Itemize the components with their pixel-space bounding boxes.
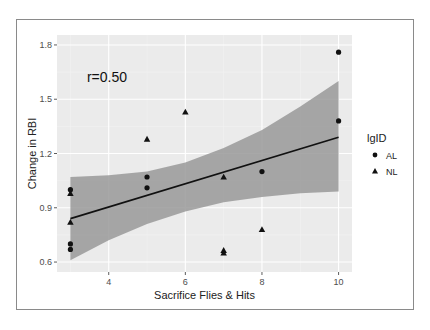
data-point-al [336,50,341,55]
legend: lgID ALNL [367,132,398,177]
y-tick-label: 1.8 [39,40,52,50]
y-tick-label: 1.2 [39,149,52,159]
x-axis: 46810 [106,272,343,287]
y-tick-label: 0.9 [39,203,52,213]
data-point-al [144,174,149,179]
legend-title: lgID [367,132,387,144]
data-point-al [144,185,149,190]
data-point-al [259,169,264,174]
x-tick-label: 8 [259,277,264,287]
data-point-al [68,247,73,252]
data-point-al [336,118,341,123]
x-axis-title: Sacrifice Flies & Hits [154,289,255,301]
legend-label-al: AL [386,151,397,161]
legend-label-nl: NL [386,167,398,177]
y-axis: 0.60.91.21.51.8 [39,40,57,267]
x-tick-label: 10 [334,277,344,287]
legend-key-nl [372,168,378,173]
legend-key-al [373,153,378,158]
y-tick-label: 0.6 [39,257,52,267]
x-tick-label: 4 [106,277,111,287]
legend-items: ALNL [372,151,398,177]
y-tick-label: 1.5 [39,94,52,104]
correlation-annotation: r=0.50 [87,69,127,85]
y-axis-title: Change in RBI [26,118,38,190]
x-tick-label: 6 [183,277,188,287]
scatter-chart: 46810 0.60.91.21.51.8 r=0.50 Sacrifice F… [0,0,430,330]
data-point-al [68,241,73,246]
